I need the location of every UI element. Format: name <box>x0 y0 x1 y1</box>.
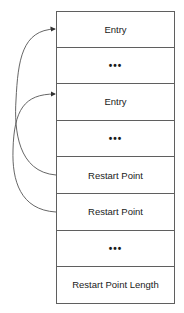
restart-arrow-2 <box>13 94 56 212</box>
restart-arrow-1 <box>16 29 56 175</box>
arrows-layer <box>0 0 184 313</box>
